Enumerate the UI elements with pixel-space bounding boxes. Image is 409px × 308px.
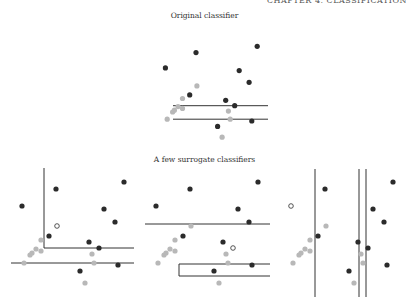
- point-light: [170, 109, 175, 114]
- panel-surrogate-3: [289, 169, 396, 297]
- point-dark: [232, 103, 237, 108]
- point-dark: [46, 233, 51, 238]
- point-dark: [249, 118, 254, 123]
- point-light: [172, 237, 177, 242]
- point-dark: [322, 186, 327, 191]
- point-dark: [19, 203, 24, 208]
- point-dark: [315, 233, 320, 238]
- point-dark: [249, 262, 254, 267]
- point-dark: [180, 233, 185, 238]
- point-light: [302, 246, 307, 251]
- point-light: [358, 251, 363, 256]
- point-light: [180, 106, 185, 111]
- point-dark: [220, 239, 225, 244]
- point-light: [323, 223, 328, 228]
- point-light: [155, 260, 160, 265]
- point-dark: [77, 268, 82, 273]
- point-dark: [215, 124, 220, 129]
- point-light: [161, 252, 166, 257]
- highlighted-point: [231, 246, 236, 251]
- point-light: [226, 109, 231, 114]
- point-light: [27, 252, 32, 257]
- point-light: [216, 280, 221, 285]
- point-light: [307, 237, 312, 242]
- point-dark: [115, 262, 120, 267]
- point-light: [82, 280, 87, 285]
- point-light: [360, 260, 365, 265]
- point-light: [172, 248, 177, 253]
- point-dark: [187, 92, 192, 97]
- point-dark: [187, 186, 192, 191]
- point-light: [21, 260, 26, 265]
- point-light: [223, 251, 228, 256]
- point-dark: [53, 186, 58, 191]
- point-dark: [355, 239, 360, 244]
- point-dark: [247, 80, 252, 85]
- point-light: [228, 117, 233, 122]
- point-dark: [163, 65, 168, 70]
- panel-surrogate-1: [11, 168, 134, 286]
- highlighted-point: [289, 204, 294, 209]
- point-light: [296, 252, 301, 257]
- point-light: [351, 280, 356, 285]
- point-dark: [112, 219, 117, 224]
- point-dark: [346, 268, 351, 273]
- point-light: [167, 246, 172, 251]
- point-light: [290, 260, 295, 265]
- point-dark: [211, 268, 216, 273]
- point-dark: [255, 179, 260, 184]
- point-dark: [381, 219, 386, 224]
- panel-surrogate-2: [145, 179, 270, 285]
- point-light: [38, 237, 43, 242]
- panel-original: [163, 44, 268, 140]
- point-dark: [121, 179, 126, 184]
- point-dark: [255, 44, 260, 49]
- point-dark: [370, 206, 375, 211]
- point-light: [194, 83, 199, 88]
- point-light: [89, 251, 94, 256]
- figure-canvas: [0, 0, 409, 308]
- point-dark: [235, 206, 240, 211]
- point-dark: [384, 262, 389, 267]
- point-dark: [390, 179, 395, 184]
- point-light: [225, 260, 230, 265]
- point-dark: [153, 203, 158, 208]
- point-light: [307, 248, 312, 253]
- point-dark: [86, 239, 91, 244]
- point-light: [38, 248, 43, 253]
- point-light: [165, 117, 170, 122]
- point-light: [220, 135, 225, 140]
- point-dark: [193, 50, 198, 55]
- point-light: [180, 96, 185, 101]
- point-dark: [237, 68, 242, 73]
- point-light: [188, 223, 193, 228]
- point-dark: [101, 206, 106, 211]
- point-dark: [365, 245, 370, 250]
- point-light: [91, 260, 96, 265]
- point-dark: [223, 98, 228, 103]
- point-light: [33, 246, 38, 251]
- point-dark: [246, 219, 251, 224]
- highlighted-point: [55, 224, 60, 229]
- point-dark: [96, 245, 101, 250]
- decision-boundary-box: [179, 264, 270, 276]
